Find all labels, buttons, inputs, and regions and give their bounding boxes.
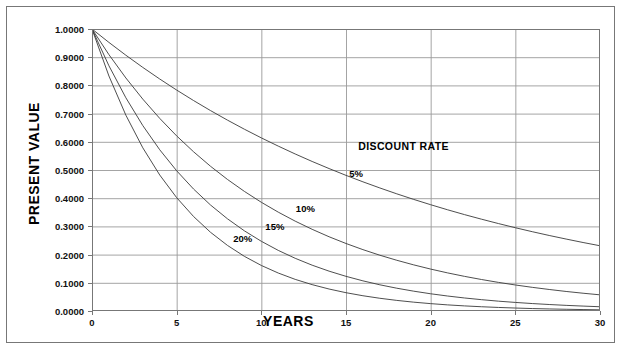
chart-figure: PRESENT VALUE 0.00000.10000.20000.30000.… (0, 0, 623, 353)
legend-title: DISCOUNT RATE (358, 140, 449, 152)
series-label-15pct: 15% (265, 221, 284, 232)
series-annotations: 5%10%15%20%DISCOUNT RATE (0, 0, 623, 353)
series-label-5pct: 5% (349, 168, 363, 179)
series-label-20pct: 20% (233, 232, 252, 243)
series-label-10pct: 10% (296, 203, 315, 214)
